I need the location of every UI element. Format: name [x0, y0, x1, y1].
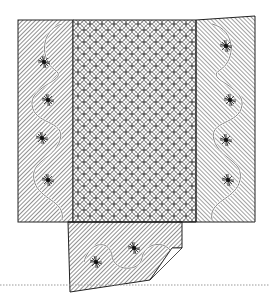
left-border-panel — [18, 20, 73, 222]
center-field-panel — [73, 20, 196, 222]
quilt-illustration — [0, 0, 270, 300]
right-border-panel — [196, 16, 255, 222]
bottom-flap-panel — [68, 222, 196, 292]
